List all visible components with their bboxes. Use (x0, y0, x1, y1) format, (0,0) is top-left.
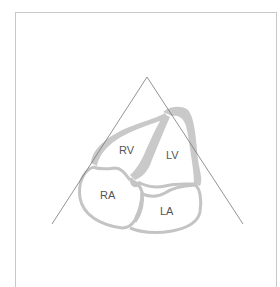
label-la: LA (160, 205, 174, 217)
label-rv: RV (119, 144, 135, 156)
sector-right-edge (147, 77, 243, 224)
label-ra: RA (100, 189, 116, 201)
label-lv: LV (166, 149, 179, 161)
tricuspid-annulus (93, 167, 130, 180)
myocardium (91, 107, 201, 186)
